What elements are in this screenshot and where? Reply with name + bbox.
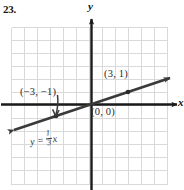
graph-figure: 23. <box>0 0 184 190</box>
point-label-neg3-neg1: (−3, −1) <box>20 86 56 97</box>
equation-annotation: y = 1 3 x <box>29 129 58 150</box>
equation-fraction: 1 3 <box>45 129 53 148</box>
fraction-denominator: 3 <box>46 139 53 148</box>
fraction-numerator: 1 <box>45 129 52 138</box>
point-label-3-1: (3, 1) <box>104 68 128 79</box>
data-point-3-1 <box>126 90 131 95</box>
y-axis-label: y <box>88 0 93 12</box>
point-label-origin: (0, 0) <box>91 106 115 117</box>
equation-left-side: y = <box>29 134 44 147</box>
x-axis-label: x <box>178 96 184 108</box>
